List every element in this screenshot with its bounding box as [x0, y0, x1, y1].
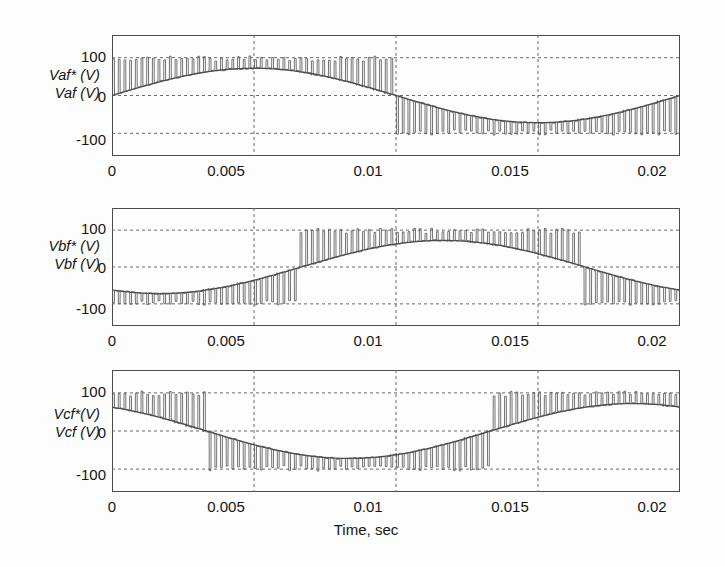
subplot-c-ytick-100: 100 — [50, 383, 106, 400]
subplot-b-xtick-0: 0 — [92, 332, 132, 349]
subplot-c-xtick-002: 0.02 — [632, 498, 672, 515]
subplot-c — [112, 370, 680, 492]
figure-canvas: Vaf* (V) Vaf (V) 100 0 -100 0 0.005 0.01… — [0, 0, 725, 567]
subplot-c-xtick-001: 0.01 — [348, 498, 388, 515]
subplot-a-xtick-0005: 0.005 — [206, 162, 246, 179]
subplot-c-ylabel-line1: Vcf*(V) — [8, 405, 100, 423]
subplot-b-ytick-neg100: -100 — [50, 300, 106, 317]
subplot-b-xtick-002: 0.02 — [632, 332, 672, 349]
subplot-b-ytick-100: 100 — [50, 220, 106, 237]
subplot-c-xtick-0015: 0.015 — [490, 498, 530, 515]
subplot-b-ylabel-line1: Vbf* (V) — [8, 237, 100, 255]
subplot-a-xtick-0015: 0.015 — [490, 162, 530, 179]
subplot-a-xtick-001: 0.01 — [348, 162, 388, 179]
subplot-a — [112, 35, 680, 156]
subplot-a-xtick-0: 0 — [92, 162, 132, 179]
subplot-c-ytick-neg100: -100 — [50, 466, 106, 483]
subplot-c-xtick-0: 0 — [92, 498, 132, 515]
subplot-c-ytick-0: 0 — [50, 424, 106, 441]
subplot-b — [112, 208, 680, 326]
x-axis-label: Time, sec — [296, 521, 436, 538]
subplot-b-plot — [112, 208, 680, 326]
subplot-a-plot — [112, 35, 680, 156]
subplot-b-ytick-0: 0 — [50, 259, 106, 276]
subplot-a-ytick-0: 0 — [50, 88, 106, 105]
subplot-b-xtick-001: 0.01 — [348, 332, 388, 349]
subplot-a-ylabel-line1: Vaf* (V) — [8, 66, 100, 84]
subplot-c-xtick-0005: 0.005 — [206, 498, 246, 515]
subplot-a-ytick-neg100: -100 — [50, 131, 106, 148]
subplot-a-xtick-002: 0.02 — [632, 162, 672, 179]
subplot-b-xtick-0015: 0.015 — [490, 332, 530, 349]
subplot-c-plot — [112, 370, 680, 492]
subplot-a-ytick-100: 100 — [50, 48, 106, 65]
subplot-b-xtick-0005: 0.005 — [206, 332, 246, 349]
